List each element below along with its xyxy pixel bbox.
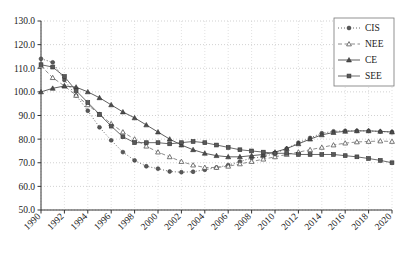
legend-label-ce: CE (365, 55, 377, 65)
data-point (98, 125, 102, 129)
legend-label-nee: NEE (365, 39, 384, 49)
data-point (347, 26, 351, 30)
data-point (367, 157, 371, 161)
y-tick-label: 110.0 (14, 64, 35, 74)
data-point (86, 101, 90, 105)
x-tick-label: 1998 (116, 211, 137, 232)
data-point (51, 60, 55, 64)
data-point (203, 141, 207, 145)
y-tick-label: 120.0 (14, 40, 36, 50)
data-point (109, 138, 113, 142)
data-point (168, 142, 172, 146)
data-point (74, 89, 78, 93)
y-tick-label: 100.0 (14, 87, 36, 97)
data-point (109, 124, 113, 128)
data-point (226, 145, 230, 149)
data-point (378, 158, 382, 162)
data-point (343, 154, 347, 158)
line-chart: 50.060.070.080.090.0100.0110.0120.0130.0… (0, 0, 401, 261)
x-tick-label: 2020 (373, 211, 394, 232)
x-tick-label: 2004 (186, 211, 207, 232)
x-tick-label: 2016 (326, 211, 347, 232)
x-tick-label: 2002 (162, 211, 183, 232)
x-tick-label: 2006 (209, 211, 230, 232)
x-tick-label: 1992 (45, 211, 66, 232)
legend-label-cis: CIS (365, 23, 380, 33)
data-point (347, 74, 351, 78)
data-point (168, 170, 172, 174)
data-point (238, 148, 242, 152)
y-tick-label: 80.0 (18, 135, 35, 145)
data-point (39, 57, 43, 61)
data-point (98, 112, 102, 116)
y-tick-label: 90.0 (18, 111, 35, 121)
data-point (121, 150, 125, 154)
x-tick-label: 2000 (139, 211, 160, 232)
data-point (355, 155, 359, 159)
legend-label-see: SEE (365, 71, 382, 81)
data-point (191, 140, 195, 144)
data-point (51, 65, 55, 69)
data-point (261, 150, 265, 154)
data-point (133, 141, 137, 145)
data-point (273, 151, 277, 155)
y-tick-label: 130.0 (14, 16, 36, 26)
x-tick-label: 2014 (303, 211, 324, 232)
data-point (133, 158, 137, 162)
chart-container: 50.060.070.080.090.0100.0110.0120.0130.0… (0, 0, 401, 261)
y-tick-label: 70.0 (18, 158, 35, 168)
data-point (39, 63, 43, 67)
data-point (390, 161, 394, 165)
data-point (144, 141, 148, 145)
x-tick-label: 1994 (69, 211, 90, 232)
data-point (332, 153, 336, 157)
data-point (296, 153, 300, 157)
data-point (215, 143, 219, 147)
x-tick-label: 2018 (350, 211, 371, 232)
data-point (156, 141, 160, 145)
y-tick-label: 60.0 (18, 182, 35, 192)
data-point (86, 109, 90, 113)
data-point (285, 151, 289, 155)
x-tick-label: 2010 (256, 211, 277, 232)
data-point (308, 153, 312, 157)
x-tick-label: 2012 (279, 211, 300, 232)
data-point (320, 153, 324, 157)
data-point (179, 170, 183, 174)
data-point (121, 135, 125, 139)
x-tick-label: 2008 (233, 211, 254, 232)
data-point (179, 141, 183, 145)
data-point (144, 164, 148, 168)
data-point (156, 167, 160, 171)
x-tick-label: 1996 (92, 211, 113, 232)
data-point (250, 149, 254, 153)
data-point (191, 170, 195, 174)
data-point (62, 75, 66, 79)
